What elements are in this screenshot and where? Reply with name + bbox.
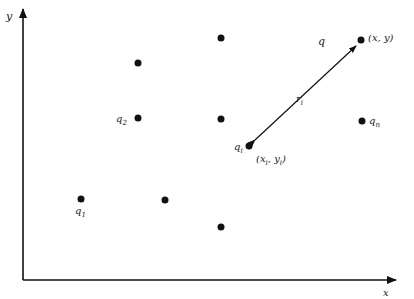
point-q2: q2 <box>116 113 142 127</box>
diagram-canvas: y x ri q (x, y) qi (xi, yi) q1 q2 qn <box>0 0 414 299</box>
point-unlabeled <box>218 224 225 231</box>
point-q-label: q <box>318 35 325 48</box>
point-unlabeled <box>218 35 225 42</box>
point-qi-label: qi <box>234 141 243 155</box>
point-qi: qi (xi, yi) <box>234 141 286 167</box>
y-axis-label: y <box>5 10 13 23</box>
point-qn-label: qn <box>369 115 380 129</box>
distance-label: ri <box>296 93 303 107</box>
point-q-coord: (x, y) <box>368 32 394 43</box>
point-q2-label: q2 <box>116 113 127 127</box>
point-unlabeled <box>135 60 142 67</box>
point-unlabeled <box>162 197 169 204</box>
point-unlabeled <box>218 116 225 123</box>
point-qn: qn <box>359 115 381 129</box>
distance-arrow <box>255 46 356 140</box>
point-qi-coord: (xi, yi) <box>256 153 286 167</box>
x-axis-label: x <box>383 287 389 298</box>
point-q1: q1 <box>75 196 86 220</box>
point-q1-label: q1 <box>75 205 86 219</box>
point-q: q (x, y) <box>318 32 394 48</box>
